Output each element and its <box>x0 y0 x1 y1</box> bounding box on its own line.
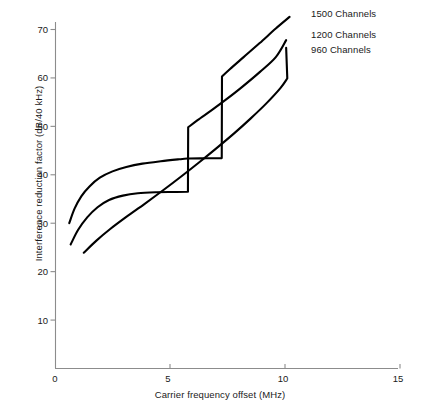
x-axis-ticks <box>170 364 400 369</box>
y-axis-ticks <box>51 30 56 321</box>
x-axis-title: Carrier frequency offset (MHz) <box>55 389 385 400</box>
series-label-1500-channels: 1500 Channels <box>311 8 376 19</box>
series-label-960-channels: 960 Channels <box>311 44 371 55</box>
y-tick-label: 70 <box>14 24 48 35</box>
curve-960-channels <box>84 48 288 253</box>
x-tick-label: 0 <box>42 373 68 384</box>
y-axis-title: Interference reduction factor (dB/40 kHz… <box>33 40 44 308</box>
series-label-1200-channels: 1200 Channels <box>311 29 376 40</box>
chart-plot-area <box>0 0 435 416</box>
figure-chart: 70 60 50 40 30 20 10 0 5 10 15 Interfere… <box>0 0 435 416</box>
y-tick-label: 10 <box>14 315 48 326</box>
data-curves <box>69 17 289 253</box>
x-tick-label: 10 <box>270 373 296 384</box>
curve-1200-channels <box>71 40 287 244</box>
x-tick-label: 15 <box>385 373 411 384</box>
x-tick-label: 5 <box>155 373 181 384</box>
